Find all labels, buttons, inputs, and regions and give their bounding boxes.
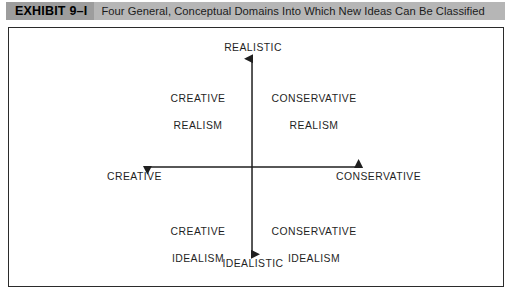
- exhibit-header: EXHIBIT 9–I Four General, Conceptual Dom…: [6, 2, 505, 20]
- quadrant-label-conservative-idealism: CONSERVATIVE IDEALISM: [271, 212, 356, 266]
- quadrant-line-2: REALISM: [174, 120, 223, 131]
- exhibit-caption: Four General, Conceptual Domains Into Wh…: [94, 2, 484, 20]
- quadrant-line-1: CREATIVE: [171, 226, 226, 237]
- quadrant-label-creative-realism: CREATIVE REALISM: [171, 79, 226, 133]
- quadrant-label-conservative-realism: CONSERVATIVE REALISM: [271, 79, 356, 133]
- quadrant-line-1: CREATIVE: [171, 93, 226, 104]
- axis-label-creative: CREATIVE: [107, 171, 162, 182]
- exhibit-figure-frame: REALISTIC IDEALISTIC CREATIVE CONSERVATI…: [8, 27, 504, 287]
- quadrant-axes: [9, 28, 503, 286]
- quadrant-label-creative-idealism: CREATIVE IDEALISM: [171, 212, 226, 266]
- quadrant-line-1: CONSERVATIVE: [271, 226, 356, 237]
- exhibit-number-tag: EXHIBIT 9–I: [6, 2, 94, 20]
- quadrant-line-2: REALISM: [290, 120, 339, 131]
- quadrant-line-1: CONSERVATIVE: [271, 93, 356, 104]
- axis-label-realistic: REALISTIC: [224, 41, 282, 54]
- quadrant-line-2: IDEALISM: [288, 253, 340, 264]
- axis-label-conservative: CONSERVATIVE: [336, 171, 421, 182]
- quadrant-line-2: IDEALISM: [172, 253, 224, 264]
